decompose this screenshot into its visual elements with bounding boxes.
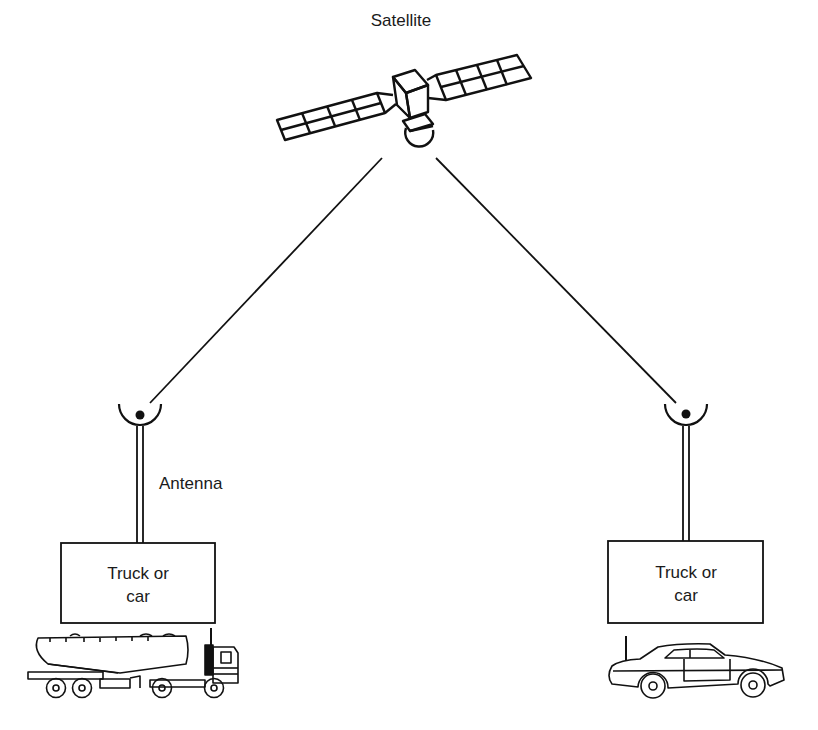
right-box-line2: car [674,586,698,605]
satellite-label: Satellite [371,11,431,30]
tanker-truck-icon [28,628,238,698]
satellite-communication-diagram: Satellite [0,0,818,730]
left-box-line2: car [126,587,150,606]
right-antenna [665,404,707,541]
satellite-body [393,70,433,147]
dish-feed-dot [136,411,145,420]
antenna-label: Antenna [159,474,223,493]
right-vehicle-box: Truck or car [608,541,763,623]
truck-wheels [47,679,224,698]
right-box-line1: Truck or [655,563,717,582]
signal-line-right [436,158,676,403]
right-solar-panel [427,55,531,100]
left-solar-panel [277,93,396,140]
satellite-icon [277,55,531,147]
left-vehicle-box: Truck or car [61,543,215,623]
car-icon [609,636,784,698]
signal-line-left [150,158,382,403]
left-antenna [119,404,161,543]
dish-feed-dot [682,410,691,419]
left-box-line1: Truck or [107,564,169,583]
